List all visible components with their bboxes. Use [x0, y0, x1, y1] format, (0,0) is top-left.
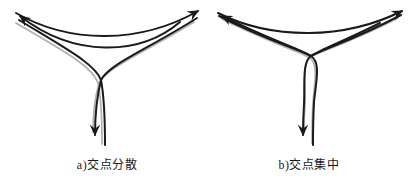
figure-canvas: a)交点分散 b)交点集中: [0, 0, 411, 184]
caption-a: a)交点分散: [8, 155, 206, 173]
gray-merge-curve-left: [16, 23, 102, 144]
figure-a-dispersed: a)交点分散: [8, 4, 206, 173]
gray-cross-curve-right: [304, 18, 398, 133]
junction-diagram-a: [8, 4, 206, 152]
caption-b: b)交点集中: [210, 155, 408, 173]
figure-b-concentrated: b)交点集中: [210, 4, 408, 173]
gray-merge-curve-right: [93, 22, 194, 132]
junction-diagram-b: [210, 4, 408, 152]
